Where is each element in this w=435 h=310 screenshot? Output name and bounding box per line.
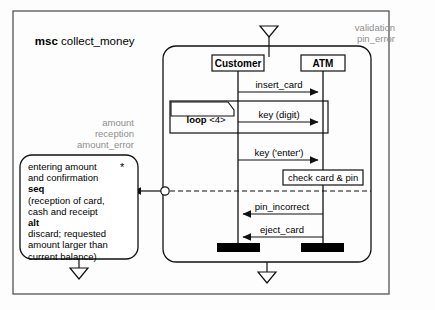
top-gate-triangle: [260, 26, 278, 57]
message-label-insert-card: insert_card: [238, 80, 320, 91]
reference-line-2: and confirmation: [28, 172, 132, 183]
reference-box-text: entering amount and confirmation seq (re…: [28, 161, 132, 262]
reference-line-3-seq: seq: [28, 183, 132, 194]
loop-operator: loop: [187, 114, 207, 125]
gate-label-validation: validation: [303, 22, 395, 34]
reference-line-5: cash and receipt: [28, 206, 132, 217]
reference-line-8: amount larger than: [28, 239, 132, 250]
message-label-key-digit: key (digit): [238, 110, 320, 121]
gate-label-amount-error: amount_error: [48, 139, 134, 151]
message-label-pin-incorrect: pin_incorrect: [241, 202, 323, 213]
bottom-gate-triangle: [258, 262, 276, 283]
reference-line-1: entering amount: [28, 161, 132, 172]
reference-line-4: (reception of card,: [28, 195, 132, 206]
page-title: msc collect_money: [22, 22, 135, 61]
msc-name: collect_money: [61, 35, 135, 47]
reference-line-7: discard; requested: [28, 228, 132, 239]
gate-label-reception: reception: [48, 128, 134, 140]
message-label-key-enter: key ('enter'): [238, 148, 320, 159]
reference-line-9: current balance): [28, 251, 132, 262]
gate-label-amount: amount: [48, 117, 134, 129]
gate-label-pin-error: pin_error: [303, 33, 395, 45]
reference-gate-triangle: [70, 259, 88, 279]
loop-expression-label: loop <4>: [176, 104, 226, 136]
message-label-eject-card: eject_card: [241, 225, 323, 236]
reference-line-6-alt: alt: [28, 217, 132, 228]
condition-circle-gate: [161, 187, 169, 195]
instance-label-customer: Customer: [212, 58, 264, 69]
instance-label-atm: ATM: [301, 58, 345, 69]
termination-bar-atm: [301, 243, 344, 252]
termination-bar-customer: [217, 243, 260, 252]
msc-keyword: msc: [35, 35, 58, 47]
loop-bound: <4>: [209, 114, 225, 125]
msc-diagram-canvas: msc collect_money validation pin_error a…: [0, 0, 435, 310]
action-label-check-card-pin: check card & pin: [288, 173, 358, 184]
